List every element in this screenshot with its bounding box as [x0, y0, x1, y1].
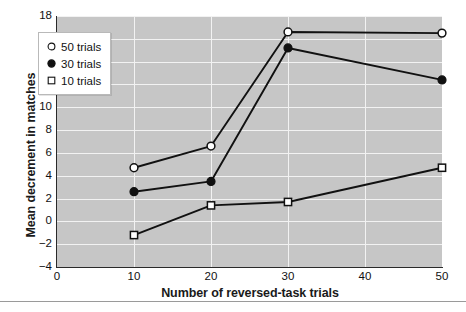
legend-item: 30 trials	[45, 55, 101, 72]
filled-circle-icon	[45, 58, 58, 69]
data-point	[438, 164, 445, 171]
data-point	[438, 29, 446, 37]
data-point	[284, 198, 291, 205]
data-point	[207, 202, 214, 209]
series-open-square	[130, 164, 445, 239]
data-series-layer	[57, 16, 442, 267]
x-axis-title: Number of reversed-task trials	[57, 286, 443, 300]
legend-item: 10 trials	[45, 72, 101, 89]
data-point	[284, 28, 292, 36]
data-point	[438, 76, 446, 84]
x-tick-label: 30	[268, 271, 308, 283]
y-tick-label: 8	[26, 124, 52, 136]
chart-legend: 50 trials 30 trials 10 trials	[38, 32, 111, 95]
data-point	[207, 177, 215, 185]
x-tick-label: 40	[345, 271, 385, 283]
series-line	[134, 48, 442, 192]
y-tick-label: 2	[26, 193, 52, 205]
legend-item-label: 30 trials	[61, 58, 101, 70]
x-tick-label: 20	[191, 271, 231, 283]
open-square-icon	[45, 75, 58, 86]
y-tick-label: −2	[26, 238, 52, 250]
x-axis-line	[56, 267, 443, 268]
y-tick-label: 6	[26, 147, 52, 159]
y-tick-label: 18	[26, 10, 52, 22]
data-point	[284, 44, 292, 52]
x-tick-label: 10	[114, 271, 154, 283]
legend-item-label: 50 trials	[61, 41, 101, 53]
data-point	[130, 164, 138, 172]
y-tick-label: 10	[26, 101, 52, 113]
legend-item-label: 10 trials	[61, 75, 101, 87]
figure-container: Mean decrement in matches 18161412108642…	[0, 0, 466, 312]
legend-item: 50 trials	[45, 38, 101, 55]
data-point	[130, 231, 137, 238]
plot-area	[57, 16, 442, 267]
footer-divider	[0, 301, 466, 302]
x-tick-label: 0	[37, 271, 77, 283]
open-circle-icon	[45, 41, 58, 52]
x-tick-label: 50	[422, 271, 462, 283]
data-point	[130, 188, 138, 196]
y-tick-label: 4	[26, 170, 52, 182]
data-point	[207, 142, 215, 150]
y-tick-label: 0	[26, 215, 52, 227]
series-filled-circle	[130, 44, 446, 196]
